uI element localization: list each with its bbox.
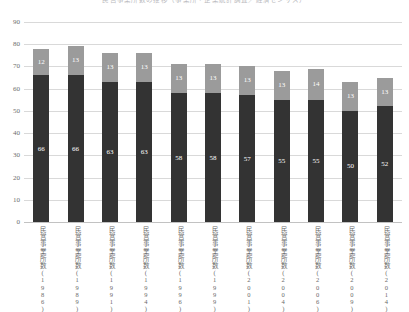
bar-value-label-bottom: 52 bbox=[381, 161, 388, 168]
bar-segment-bottom[interactable]: 66 bbox=[33, 75, 49, 222]
bar-group[interactable]: 1363 bbox=[102, 53, 118, 222]
x-axis-label: 民営事業所数(2001) bbox=[242, 226, 252, 312]
bar-segment-top[interactable]: 13 bbox=[102, 53, 118, 82]
bar-segment-top[interactable]: 13 bbox=[342, 82, 358, 111]
bar-group[interactable]: 1355 bbox=[274, 71, 290, 222]
bar-value-label-bottom: 66 bbox=[38, 145, 45, 152]
bar-value-label-top: 12 bbox=[38, 59, 45, 66]
bar-value-label-top: 13 bbox=[347, 93, 354, 100]
bar-segment-top[interactable]: 13 bbox=[205, 64, 221, 93]
y-axis-tick-label: 0 bbox=[17, 219, 21, 226]
bar-segment-top[interactable]: 13 bbox=[171, 64, 187, 93]
x-axis-label: 民営事業所数(1996) bbox=[174, 226, 184, 312]
x-axis-label: 民営事業所数(1991) bbox=[105, 226, 115, 312]
bar-segment-top[interactable]: 13 bbox=[136, 53, 152, 82]
x-axis-label: 民営事業所数(1999) bbox=[208, 226, 218, 312]
bar-value-label-bottom: 63 bbox=[106, 149, 113, 156]
y-axis-tick-label: 20 bbox=[13, 174, 20, 181]
gridline-0 bbox=[24, 222, 402, 223]
bar-group[interactable]: 1350 bbox=[342, 82, 358, 222]
bar-group[interactable]: 1366 bbox=[68, 46, 84, 222]
bar-segment-top[interactable]: 14 bbox=[308, 69, 324, 100]
bar-segment-bottom[interactable]: 58 bbox=[205, 93, 221, 222]
bar-value-label-top: 13 bbox=[141, 64, 148, 71]
bar-value-label-bottom: 55 bbox=[313, 157, 320, 164]
bar-value-label-bottom: 55 bbox=[278, 157, 285, 164]
bar-segment-top[interactable]: 13 bbox=[377, 78, 393, 107]
bar-group[interactable]: 1455 bbox=[308, 69, 324, 222]
x-axis-label: 民営事業所数(2014) bbox=[380, 226, 390, 312]
x-axis-label: 民営事業所数(1989) bbox=[71, 226, 81, 312]
bar-value-label-top: 13 bbox=[278, 82, 285, 89]
bar-value-label-top: 14 bbox=[313, 81, 320, 88]
bar-segment-bottom[interactable]: 55 bbox=[308, 100, 324, 222]
bar-value-label-bottom: 50 bbox=[347, 163, 354, 170]
bar-segment-top[interactable]: 13 bbox=[239, 66, 255, 95]
y-axis-tick-label: 90 bbox=[13, 19, 20, 26]
x-axis-label: 民営事業所数(2006) bbox=[311, 226, 321, 312]
bar-value-label-top: 13 bbox=[175, 75, 182, 82]
y-axis-tick-label: 30 bbox=[13, 152, 20, 159]
bar-value-label-bottom: 58 bbox=[210, 154, 217, 161]
y-axis-tick-label: 80 bbox=[13, 41, 20, 48]
y-axis-tick-label: 70 bbox=[13, 63, 20, 70]
y-axis-tick-label: 10 bbox=[13, 196, 20, 203]
x-axis-label: 民営事業所数(2009) bbox=[345, 226, 355, 312]
bar-value-label-top: 13 bbox=[210, 75, 217, 82]
bar-group[interactable]: 1357 bbox=[239, 66, 255, 222]
bar-segment-bottom[interactable]: 52 bbox=[377, 106, 393, 222]
bar-value-label-bottom: 57 bbox=[244, 155, 251, 162]
bar-value-label-top: 13 bbox=[381, 89, 388, 96]
bar-group[interactable]: 1352 bbox=[377, 78, 393, 222]
bars-layer: 1266136613631363135813581357135514551350… bbox=[24, 22, 402, 222]
bar-value-label-top: 13 bbox=[244, 77, 251, 84]
y-axis-tick-label: 50 bbox=[13, 107, 20, 114]
bar-segment-top[interactable]: 13 bbox=[274, 71, 290, 100]
bar-group[interactable]: 1363 bbox=[136, 53, 152, 222]
bar-segment-bottom[interactable]: 55 bbox=[274, 100, 290, 222]
bar-group[interactable]: 1358 bbox=[171, 64, 187, 222]
bar-segment-top[interactable]: 12 bbox=[33, 49, 49, 76]
x-axis-label: 民営事業所数(2004) bbox=[277, 226, 287, 312]
chart-title: 民営事業所数の推移（事業所・企業統計調査／経済センサス） bbox=[0, 0, 409, 4]
bar-value-label-bottom: 63 bbox=[141, 149, 148, 156]
bar-group[interactable]: 1266 bbox=[33, 49, 49, 222]
bar-segment-bottom[interactable]: 50 bbox=[342, 111, 358, 222]
bar-segment-bottom[interactable]: 57 bbox=[239, 95, 255, 222]
bar-segment-bottom[interactable]: 66 bbox=[68, 75, 84, 222]
bar-value-label-bottom: 58 bbox=[175, 154, 182, 161]
plot-area: 0102030405060708090 12661366136313631358… bbox=[24, 22, 402, 222]
x-axis-label: 民営事業所数(1986) bbox=[36, 226, 46, 312]
bar-segment-top[interactable]: 13 bbox=[68, 46, 84, 75]
x-axis-labels: 民営事業所数(1986)民営事業所数(1989)民営事業所数(1991)民営事業… bbox=[24, 226, 402, 306]
bar-segment-bottom[interactable]: 63 bbox=[136, 82, 152, 222]
bar-value-label-bottom: 66 bbox=[72, 145, 79, 152]
bar-value-label-top: 13 bbox=[106, 64, 113, 71]
y-axis-tick-label: 40 bbox=[13, 130, 20, 137]
bar-segment-bottom[interactable]: 58 bbox=[171, 93, 187, 222]
bar-value-label-top: 13 bbox=[72, 57, 79, 64]
bar-segment-bottom[interactable]: 63 bbox=[102, 82, 118, 222]
y-axis-tick-label: 60 bbox=[13, 85, 20, 92]
x-axis-label: 民営事業所数(1994) bbox=[139, 226, 149, 312]
bar-group[interactable]: 1358 bbox=[205, 64, 221, 222]
